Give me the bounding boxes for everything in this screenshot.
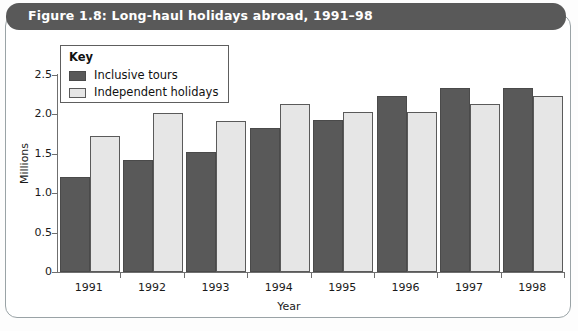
y-tick-label-wrap: 0	[8, 265, 52, 279]
legend-label-inclusive-tours: Inclusive tours	[94, 68, 178, 82]
x-tick-label-1998: 1998	[502, 281, 562, 294]
bar-independent-holidays-1991	[90, 136, 120, 272]
legend-heading: Key	[69, 50, 93, 64]
bar-independent-holidays-1998	[533, 96, 563, 272]
y-tick-label: 2.5	[18, 68, 52, 81]
legend-label-independent-holidays: Independent holidays	[94, 85, 218, 99]
chart-legend: Key Inclusive tours Independent holidays	[60, 45, 229, 103]
x-tick-label-1993: 1993	[185, 281, 245, 294]
bar-inclusive-tours-1995	[313, 120, 343, 272]
x-tick-mark	[120, 272, 121, 278]
bar-inclusive-tours-1997	[440, 88, 470, 272]
bar-inclusive-tours-1991	[60, 177, 90, 272]
y-axis-line	[57, 74, 58, 273]
bar-inclusive-tours-1998	[503, 88, 533, 272]
bar-independent-holidays-1997	[470, 104, 500, 272]
bar-inclusive-tours-1992	[123, 160, 153, 272]
y-tick-label-wrap: 2.5	[8, 68, 52, 82]
x-tick-mark	[564, 272, 565, 278]
x-tick-mark	[184, 272, 185, 278]
figure-title-bar: Figure 1.8: Long-haul holidays abroad, 1…	[6, 3, 566, 30]
y-tick-mark	[52, 154, 58, 155]
bar-independent-holidays-1992	[153, 113, 183, 272]
x-tick-mark	[374, 272, 375, 278]
x-tick-label-1991: 1991	[59, 281, 119, 294]
bar-inclusive-tours-1996	[377, 96, 407, 272]
x-tick-mark	[501, 272, 502, 278]
x-tick-label-1994: 1994	[249, 281, 309, 294]
y-axis-label: Millions	[18, 114, 31, 214]
x-tick-label-1992: 1992	[122, 281, 182, 294]
bar-independent-holidays-1993	[216, 121, 246, 272]
x-tick-label-1995: 1995	[312, 281, 372, 294]
legend-swatch-icon-inclusive-tours	[69, 71, 86, 81]
bar-independent-holidays-1995	[343, 112, 373, 272]
figure-container: Figure 1.8: Long-haul holidays abroad, 1…	[0, 0, 578, 331]
x-axis-label: Year	[0, 300, 578, 313]
y-tick-label: 0	[18, 265, 52, 278]
x-tick-mark	[437, 272, 438, 278]
y-tick-mark	[52, 114, 58, 115]
y-tick-label-wrap: 0.5	[8, 226, 52, 240]
page-title: Figure 1.8: Long-haul holidays abroad, 1…	[28, 8, 373, 23]
x-tick-label-1997: 1997	[439, 281, 499, 294]
bar-inclusive-tours-1993	[186, 152, 216, 272]
y-tick-mark	[52, 75, 58, 76]
bar-independent-holidays-1994	[280, 104, 310, 272]
legend-swatch-icon-independent-holidays	[69, 88, 86, 98]
bar-independent-holidays-1996	[407, 112, 437, 272]
y-tick-mark	[52, 193, 58, 194]
y-tick-mark	[52, 233, 58, 234]
y-tick-label: 0.5	[18, 226, 52, 239]
x-tick-mark	[247, 272, 248, 278]
y-tick-mark	[52, 272, 58, 273]
x-tick-mark	[311, 272, 312, 278]
x-tick-label-1996: 1996	[376, 281, 436, 294]
bar-inclusive-tours-1994	[250, 128, 280, 272]
